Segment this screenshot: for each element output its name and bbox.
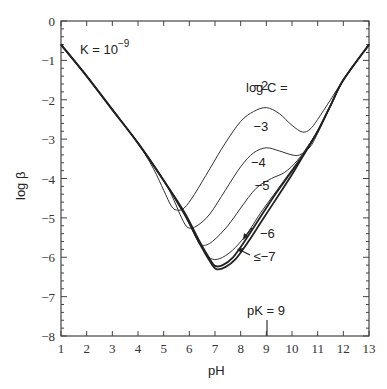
k-annotation: K = 10−9 [80,38,130,57]
series-label: −5 [255,178,270,193]
x-tick-label: 11 [311,341,324,356]
x-tick-label: 5 [160,341,167,356]
curve-logC--2 [61,45,369,211]
x-tick-label: 7 [212,341,219,356]
x-tick-label: 1 [58,341,65,356]
y-axis-label: log β [13,172,28,200]
y-tick-label: −4 [41,172,55,187]
chart: 123456789101112130−1−2−3−4−5−6−7−8 −2−3−… [0,0,387,389]
y-tick-label: −6 [41,250,55,265]
x-tick-label: 2 [83,341,90,356]
curve-logC-<=-7 [61,45,369,270]
y-tick-label: −1 [41,53,55,68]
x-tick-label: 8 [237,341,244,356]
plot-axes: 123456789101112130−1−2−3−4−5−6−7−8 [41,14,375,356]
series-label: −6 [260,226,275,241]
x-tick-label: 4 [135,341,142,356]
x-tick-label: 12 [337,341,350,356]
curve-logC--3 [61,45,369,229]
pk-annotation: pK = 9 [247,303,285,318]
x-tick-label: 9 [263,341,270,356]
legend-header: log C = [246,80,288,95]
x-axis-label: pH [208,363,225,378]
x-tick-label: 13 [363,341,376,356]
series-label: ≤−7 [254,249,276,264]
curve-logC--4 [61,45,369,246]
curve-logC--6 [61,45,369,267]
x-tick-label: 10 [286,341,299,356]
series-labels: −2−3−4−5−6≤−7 [251,78,276,264]
y-tick-label: 0 [49,14,56,29]
curve-logC--5 [61,45,369,260]
x-tick-label: 6 [186,341,193,356]
plot-curves [61,45,369,270]
y-tick-label: −8 [41,329,55,344]
y-tick-label: −3 [41,132,55,147]
series-label: −3 [254,119,269,134]
y-tick-label: −7 [41,290,55,305]
x-tick-label: 3 [109,341,116,356]
series-label: −4 [251,155,266,170]
plot-frame [61,21,369,336]
y-tick-label: −5 [41,211,55,226]
y-tick-label: −2 [41,93,55,108]
